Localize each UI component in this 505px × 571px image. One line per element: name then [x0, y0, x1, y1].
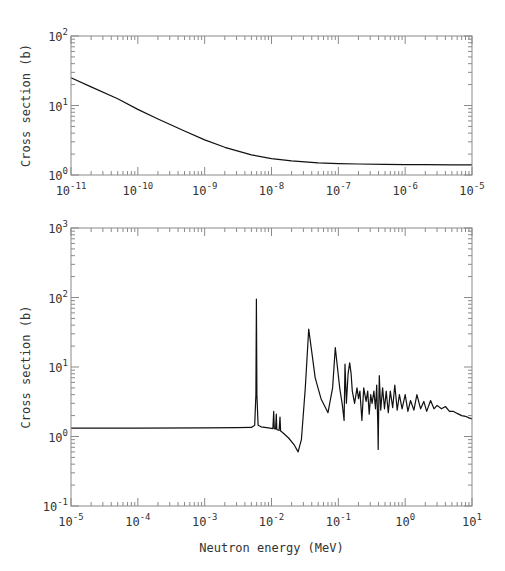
tick-label: 10-5 [58, 512, 83, 529]
tick-label: 103 [48, 219, 68, 236]
bottom-x-axis-label: Neutron energy (MeV) [199, 541, 344, 555]
tick-label: 10-7 [326, 181, 351, 198]
bottom-cross-section-curve [71, 299, 472, 452]
tick-label: 10-10 [122, 181, 153, 198]
top-cross-section-curve [71, 78, 472, 165]
tick-label: 101 [48, 358, 68, 375]
tick-label: 10-1 [43, 497, 68, 514]
tick-label: 10-6 [393, 181, 418, 198]
bottom-tick-labels: 10-510-410-310-210-110010110-11001011021… [43, 219, 482, 529]
tick-label: 102 [48, 289, 68, 306]
tick-label: 102 [48, 27, 68, 44]
tick-label: 10-1 [326, 512, 351, 529]
top-panel: 10-1110-1010-910-810-710-610-5100101102 … [19, 27, 485, 198]
tick-label: 100 [48, 166, 68, 183]
tick-label: 10-11 [56, 181, 87, 198]
top-y-axis-label: Cross section (b) [19, 44, 33, 167]
tick-label: 10-5 [459, 181, 484, 198]
bottom-panel: 10-510-410-310-210-110010110-11001011021… [19, 219, 482, 555]
bottom-plot-frame [71, 228, 472, 506]
tick-label: 10-4 [125, 512, 150, 529]
tick-label: 10-8 [259, 181, 284, 198]
tick-label: 10-2 [259, 512, 284, 529]
chart-figure: 10-1110-1010-910-810-710-610-5100101102 … [0, 0, 505, 571]
tick-label: 10-3 [192, 512, 217, 529]
tick-label: 10-9 [192, 181, 217, 198]
tick-label: 101 [462, 512, 482, 529]
top-tick-labels: 10-1110-1010-910-810-710-610-5100101102 [48, 27, 485, 198]
bottom-axis-ticks [71, 228, 472, 506]
tick-label: 101 [48, 97, 68, 114]
tick-label: 100 [48, 428, 68, 445]
bottom-y-axis-label: Cross section (b) [19, 306, 33, 429]
tick-label: 100 [395, 512, 415, 529]
